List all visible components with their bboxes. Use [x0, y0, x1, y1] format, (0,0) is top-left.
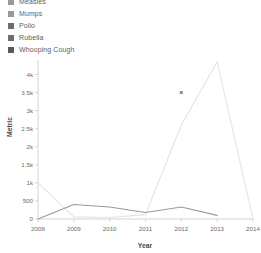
- legend-item-whooping-cough[interactable]: Whooping Cough: [8, 44, 138, 55]
- series-group: [38, 62, 253, 219]
- y-tick-label: 4k: [26, 71, 33, 78]
- plot-svg: 05001k1.5k2k2.5k3k3.5k4k 200820092010201…: [0, 55, 261, 253]
- legend-swatch-mumps: [8, 11, 14, 17]
- y-tick-label: 1.5k: [21, 161, 34, 168]
- legend-swatch-rubella: [8, 35, 14, 41]
- legend-swatch-measles: [8, 0, 14, 5]
- legend-swatch-polio: [8, 23, 14, 29]
- legend-label-mumps: Mumps: [19, 10, 42, 18]
- plot-area: 05001k1.5k2k2.5k3k3.5k4k 200820092010201…: [0, 55, 261, 253]
- y-tick-label: 1k: [26, 179, 33, 186]
- legend-label-rubella: Rubella: [19, 34, 43, 42]
- y-tick-label: 3k: [26, 107, 33, 114]
- x-tick-label: 2013: [210, 225, 224, 232]
- y-axis: 05001k1.5k2k2.5k3k3.5k4k: [21, 60, 38, 222]
- x-axis-title: Year: [138, 242, 153, 249]
- x-tick-label: 2008: [31, 225, 45, 232]
- y-axis-title: Metric: [6, 117, 13, 137]
- y-tick-label: 0: [30, 215, 34, 222]
- x-tick-label: 2014: [246, 225, 260, 232]
- legend-item-measles[interactable]: Measles: [8, 0, 138, 7]
- x-tick-label: 2009: [67, 225, 81, 232]
- x-tick-label: 2012: [174, 225, 188, 232]
- x-axis: 2008200920102011201220132014: [31, 219, 260, 232]
- x-tick-group: 2008200920102011201220132014: [31, 219, 260, 232]
- y-tick-label: 2.5k: [21, 125, 34, 132]
- series-line-whooping-cough: [38, 205, 217, 219]
- line-chart: Measles Mumps Polio Rubella Whooping Cou…: [0, 0, 261, 253]
- legend-item-mumps[interactable]: Mumps: [8, 8, 138, 19]
- x-tick-label: 2011: [139, 225, 153, 232]
- legend-item-rubella[interactable]: Rubella: [8, 32, 138, 43]
- legend-label-whooping-cough: Whooping Cough: [19, 46, 75, 54]
- legend-label-polio: Polio: [19, 22, 35, 30]
- marker-group: [180, 91, 183, 94]
- x-tick-label: 2010: [103, 225, 117, 232]
- legend-label-measles: Measles: [19, 0, 46, 6]
- legend-swatch-whooping-cough: [8, 47, 14, 53]
- y-tick-label: 500: [23, 197, 34, 204]
- chart-legend: Measles Mumps Polio Rubella Whooping Cou…: [8, 0, 138, 56]
- legend-item-polio[interactable]: Polio: [8, 20, 138, 31]
- y-tick-label: 2k: [26, 143, 33, 150]
- y-tick-label: 3.5k: [21, 89, 34, 96]
- y-tick-group: 05001k1.5k2k2.5k3k3.5k4k: [21, 71, 38, 223]
- data-point-marker[interactable]: [180, 91, 183, 94]
- series-line-measles: [38, 62, 253, 219]
